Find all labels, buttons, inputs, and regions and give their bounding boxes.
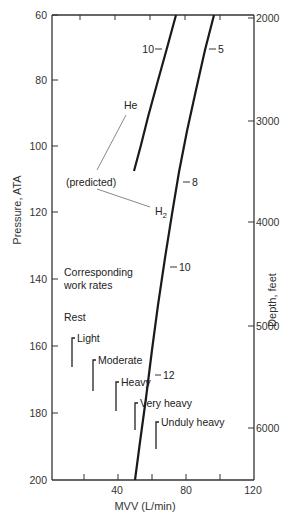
he-curve bbox=[134, 15, 176, 171]
x-tick-80: 80 bbox=[180, 484, 192, 496]
unduly-heavy-label: Unduly heavy bbox=[161, 416, 225, 428]
x-tick-120: 120 bbox=[244, 484, 262, 496]
plot-frame bbox=[52, 15, 254, 480]
chart: 60 80 100 120 140 160 180 200 40 80 120 … bbox=[0, 0, 293, 515]
y2-tick-4000: 4000 bbox=[256, 216, 280, 228]
y2-tick-6000: 6000 bbox=[256, 422, 280, 434]
moderate-label: Moderate bbox=[98, 354, 143, 366]
marker-h2-10: 10 bbox=[179, 261, 191, 273]
heavy-label: Heavy bbox=[121, 376, 152, 388]
y-tick-160: 160 bbox=[29, 340, 47, 352]
x-tick-labels: 40 80 120 bbox=[111, 484, 262, 496]
he-leader bbox=[97, 115, 126, 170]
x-tick-40: 40 bbox=[111, 484, 123, 496]
h2-label: H2 bbox=[155, 205, 168, 220]
y-tick-100: 100 bbox=[29, 140, 47, 152]
h2-curve bbox=[135, 15, 214, 480]
y2-tick-3000: 3000 bbox=[256, 115, 280, 127]
corresponding-label-1: Corresponding bbox=[64, 266, 133, 278]
rest-label: Rest bbox=[64, 311, 86, 323]
x-axis-title: MVV (L/min) bbox=[114, 500, 175, 512]
y2-tick-labels: 2000 3000 4000 5000 6000 bbox=[256, 12, 280, 434]
moderate-bracket bbox=[93, 360, 96, 391]
unduly-heavy-bracket bbox=[156, 422, 159, 449]
very-heavy-label: Very heavy bbox=[140, 397, 193, 409]
y-tick-60: 60 bbox=[35, 9, 47, 21]
y-ticks bbox=[52, 15, 58, 413]
y2-ticks bbox=[248, 18, 254, 428]
y2-axis-title: Depth, feet bbox=[266, 273, 278, 327]
y-axis-title: Pressure, ATA bbox=[11, 175, 23, 245]
light-bracket bbox=[72, 338, 75, 367]
very-heavy-bracket bbox=[135, 403, 138, 430]
y-tick-140: 140 bbox=[29, 273, 47, 285]
y-tick-180: 180 bbox=[29, 407, 47, 419]
y-tick-200: 200 bbox=[29, 474, 47, 486]
y2-tick-2000: 2000 bbox=[256, 12, 280, 24]
marker-he-10: 10 bbox=[142, 43, 154, 55]
x-ticks bbox=[84, 474, 220, 480]
marker-h2-8: 8 bbox=[192, 176, 198, 188]
marker-h2-12: 12 bbox=[163, 369, 175, 381]
corresponding-label-2: work rates bbox=[63, 279, 112, 291]
top-ticks bbox=[80, 15, 220, 20]
y-tick-labels: 60 80 100 120 140 160 180 200 bbox=[29, 9, 47, 486]
y-tick-120: 120 bbox=[29, 206, 47, 218]
he-label: He bbox=[124, 99, 138, 111]
y-tick-80: 80 bbox=[35, 74, 47, 86]
light-label: Light bbox=[77, 332, 100, 344]
heavy-bracket bbox=[116, 382, 119, 411]
h2-leader bbox=[97, 189, 150, 207]
predicted-label: (predicted) bbox=[66, 176, 116, 188]
marker-h2-5: 5 bbox=[218, 43, 224, 55]
